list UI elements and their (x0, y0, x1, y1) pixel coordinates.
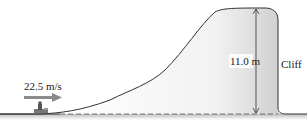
velocity-arrow-icon (24, 93, 62, 102)
height-label: 11.0 m (230, 55, 261, 67)
ground-shading (0, 114, 307, 120)
velocity-label: 22.5 m/s (24, 80, 62, 92)
vehicle-icon (34, 101, 48, 113)
cliff-diagram: 22.5 m/s 11.0 m Cliff (0, 0, 307, 123)
cliff-label: Cliff (281, 58, 302, 70)
